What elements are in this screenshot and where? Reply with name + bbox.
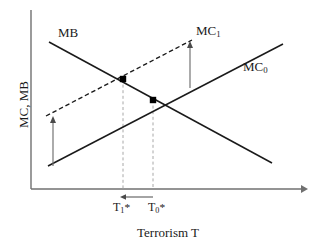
curve-label-mb: MB: [58, 26, 78, 39]
curve-label-mc0-base: MC: [243, 59, 263, 74]
x-tick-label-t0-subscript: 0: [155, 206, 159, 215]
curve-label-mc0-subscript: 0: [263, 65, 267, 75]
mc1-curve-dashed: [46, 40, 192, 116]
equilibrium-marker-e1: [120, 76, 126, 82]
curve-label-mc1-subscript: 1: [216, 29, 220, 39]
curve-label-mc1-base: MC: [196, 23, 216, 38]
x-tick-label-t0: T0*: [148, 201, 165, 213]
curve-label-mc1: MC1: [196, 24, 221, 37]
shift-arrow-left-head: [50, 116, 56, 123]
x-axis-label: Terrorism T: [137, 226, 199, 239]
equilibrium-marker-e0: [150, 97, 156, 103]
shift-arrows-group: [50, 41, 193, 166]
x-tick-label-t1-star: *: [124, 201, 130, 213]
x-axis-arrowhead: [301, 185, 308, 193]
x-tick-label-t1-subscript: 1: [120, 206, 124, 215]
figure-container: MB MC1 MC0 MC, MB Terrorism T T1* T0*: [0, 0, 315, 250]
y-axis-label: MC, MB: [17, 70, 30, 140]
curve-label-mc0: MC0: [243, 60, 268, 73]
shift-arrow-right-head: [187, 41, 193, 48]
equilibrium-move-arrow-head: [120, 194, 126, 200]
equilibrium-move-arrow-group: [120, 194, 153, 200]
x-tick-label-t1: T1*: [113, 201, 130, 213]
x-tick-label-t0-star: *: [159, 201, 165, 213]
mb-curve: [49, 42, 272, 163]
